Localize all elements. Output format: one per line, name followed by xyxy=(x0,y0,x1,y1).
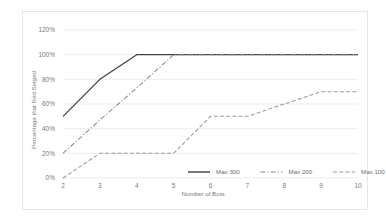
data-series-group xyxy=(63,55,358,178)
y-axis-title: Percentage that Red Sieged xyxy=(30,71,37,149)
y-tick-label: 80% xyxy=(42,76,55,83)
x-tick-label: 8 xyxy=(282,182,286,189)
x-tick-label: 10 xyxy=(354,182,362,189)
y-tick-label: 100% xyxy=(38,51,55,58)
legend-label: Max 100 xyxy=(361,168,385,175)
y-tick-label: 40% xyxy=(42,125,55,132)
gridlines xyxy=(63,30,358,178)
x-axis-tick-labels: 2345678910 xyxy=(61,182,362,189)
y-tick-label: 0% xyxy=(46,174,56,181)
y-axis-tick-labels: 0%20%40%60%80%100%120% xyxy=(38,26,55,181)
x-axis-title: Number of Bots xyxy=(182,190,225,197)
legend-label: Max 300 xyxy=(216,168,240,175)
y-tick-label: 60% xyxy=(42,100,55,107)
x-tick-label: 2 xyxy=(61,182,65,189)
y-tick-label: 120% xyxy=(38,26,55,33)
legend-label: Max 200 xyxy=(289,168,313,175)
chart-legend: Max 300Max 200Max 100 xyxy=(188,168,385,175)
x-tick-label: 6 xyxy=(209,182,213,189)
x-tick-label: 3 xyxy=(98,182,102,189)
x-tick-label: 7 xyxy=(246,182,250,189)
y-tick-label: 20% xyxy=(42,150,55,157)
series-line-max-100 xyxy=(63,92,358,178)
x-tick-label: 5 xyxy=(172,182,176,189)
x-tick-label: 4 xyxy=(135,182,139,189)
line-chart: 0%20%40%60%80%100%120% 2345678910 Number… xyxy=(0,0,386,222)
x-tick-label: 9 xyxy=(319,182,323,189)
series-line-max-300 xyxy=(63,55,358,117)
